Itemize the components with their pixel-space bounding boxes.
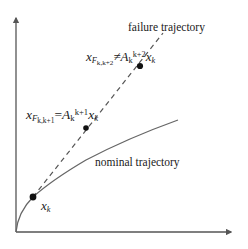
eq-upper-lhs-sub-sub: k,k+2 <box>97 59 114 67</box>
failure-trajectory-caption: failure trajectory <box>128 22 205 34</box>
eq-lower-tail-sub: k <box>94 113 98 123</box>
eq-lower-relation: = <box>54 107 62 122</box>
marker-xf-k-k2 <box>137 63 143 69</box>
eq-lower-lhs-sub-sub: k,k+1 <box>37 116 54 125</box>
eq-upper-rhs-sup: k+2 <box>133 50 146 59</box>
marker-xk <box>30 194 37 201</box>
equation-upper: xFk,k+2≠Akk+2xk <box>86 50 155 63</box>
equation-lower: xFk,k+1=Akk+1xk <box>26 108 98 122</box>
eq-upper-tail-sub: k <box>151 56 155 65</box>
marker-xf-k-k1 <box>83 125 89 131</box>
point-label-sub: k <box>47 205 51 214</box>
trajectory-diagram: failure trajectory nominal trajectory xF… <box>0 0 248 249</box>
nominal-trajectory-curve <box>16 120 178 232</box>
eq-upper-relation: ≠ <box>113 49 120 64</box>
nominal-trajectory-caption: nominal trajectory <box>95 157 180 169</box>
point-label-xk: xk <box>41 199 50 212</box>
eq-lower-rhs-sup: k+1 <box>75 107 89 117</box>
